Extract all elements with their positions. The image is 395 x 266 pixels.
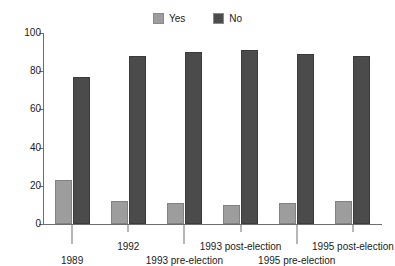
legend-label-no: No [229, 13, 242, 24]
x-axis-labels: 198919921993 pre-election1993 post-elect… [0, 224, 395, 266]
bar-yes [223, 205, 240, 224]
square-swatch-icon [153, 13, 164, 24]
y-tick-label: 80 [30, 66, 41, 76]
bar-yes [167, 203, 184, 224]
bar-group [44, 33, 100, 224]
y-tick-label: 100 [24, 28, 41, 38]
x-tick-label: 1993 post-election [200, 241, 282, 252]
bar-no [297, 54, 314, 224]
bar-groups [44, 33, 381, 224]
square-swatch-icon [213, 13, 224, 24]
x-tick-label: 1989 [61, 255, 83, 266]
bar-yes [55, 180, 72, 224]
bar-group [213, 33, 269, 224]
bar-no [241, 50, 258, 224]
bar-no [73, 77, 90, 224]
legend-entry-no: No [213, 13, 242, 24]
y-tick-label: 40 [30, 143, 41, 153]
y-tick-label: 60 [30, 104, 41, 114]
bar-yes [111, 201, 128, 224]
bar-no [129, 56, 146, 224]
bar-group [325, 33, 381, 224]
y-tick-label: 20 [30, 181, 41, 191]
bar-group [156, 33, 212, 224]
plot-area: 020406080100 [44, 33, 381, 224]
legend-entry-yes: Yes [153, 13, 185, 24]
chart-legend: Yes No [0, 11, 395, 25]
x-tick-label: 1995 post-election [312, 241, 394, 252]
bar-group [100, 33, 156, 224]
bar-chart: Yes No 020406080100 198919921993 pre-ele… [0, 0, 395, 266]
legend-label-yes: Yes [169, 13, 185, 24]
bar-no [353, 56, 370, 224]
bar-yes [279, 203, 296, 224]
bar-yes [335, 201, 352, 224]
x-tick-label: 1992 [117, 241, 139, 252]
x-tick-label: 1995 pre-election [258, 255, 335, 266]
x-tick-label: 1993 pre-election [146, 255, 223, 266]
bar-no [185, 52, 202, 224]
bar-group [269, 33, 325, 224]
